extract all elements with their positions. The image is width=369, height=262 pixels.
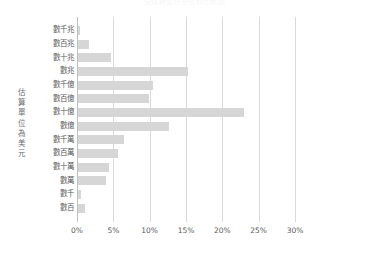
bar-row	[78, 51, 296, 65]
bar	[78, 149, 118, 158]
bar-row	[78, 202, 296, 216]
bar	[78, 67, 188, 76]
bar-row	[78, 24, 296, 38]
bar-row	[78, 120, 296, 134]
y-axis-category-label: 數萬	[28, 176, 74, 185]
bar	[78, 163, 109, 172]
y-axis-title-char: 元	[14, 149, 28, 159]
y-axis-title-char: 為	[14, 129, 28, 139]
bar-row	[78, 65, 296, 79]
bar-row	[78, 161, 296, 175]
bar	[78, 190, 81, 199]
y-axis-category-label: 數千萬	[28, 135, 74, 144]
y-axis-category-label: 數百億	[28, 94, 74, 103]
x-axis-tick-label: 0%	[71, 226, 83, 236]
bar	[78, 81, 153, 90]
bar-row	[78, 188, 296, 202]
y-axis-title-char: 估	[14, 88, 28, 98]
x-axis-tick-label: 5%	[107, 226, 119, 236]
x-axis-tick-label: 20%	[214, 226, 231, 236]
chart-title: 全球財富分布估算比例圖	[0, 0, 369, 6]
x-axis-tick-label: 25%	[250, 226, 267, 236]
bar	[78, 94, 149, 103]
y-axis-category-label: 數十兆	[28, 53, 74, 62]
y-axis-category-label: 數百	[28, 203, 74, 212]
bar-series	[78, 17, 296, 222]
y-axis-title: 估算單位為美元	[14, 88, 28, 159]
bar	[78, 108, 244, 117]
bar-row	[78, 133, 296, 147]
y-axis-category-labels: 數千兆數百兆數十兆數兆數千億數百億數十億數億數千萬數百萬數十萬數萬數千數百	[28, 17, 74, 222]
x-axis-tick-label: 15%	[178, 226, 195, 236]
y-axis-title-char: 算	[14, 98, 28, 108]
bar	[78, 40, 89, 49]
bar-row	[78, 174, 296, 188]
y-axis-category-label: 數千兆	[28, 25, 74, 34]
y-axis-title-char: 美	[14, 139, 28, 149]
y-axis-category-label: 數百萬	[28, 148, 74, 157]
bar-row	[78, 92, 296, 106]
y-axis-category-label: 數百兆	[28, 39, 74, 48]
y-axis-category-label: 數億	[28, 121, 74, 130]
y-axis-title-char: 位	[14, 119, 28, 129]
bar	[78, 26, 80, 35]
y-axis-category-label: 數十億	[28, 107, 74, 116]
y-axis-category-label: 數十萬	[28, 162, 74, 171]
y-axis-category-label: 數千	[28, 189, 74, 198]
x-axis-tick-label: 10%	[141, 226, 158, 236]
bar	[78, 53, 111, 62]
bar	[78, 176, 106, 185]
y-axis-category-label: 數兆	[28, 66, 74, 75]
bar-row	[78, 106, 296, 120]
bar-chart: 全球財富分布估算比例圖 估算單位為美元 數千兆數百兆數十兆數兆數千億數百億數十億…	[0, 0, 369, 262]
y-axis-title-char: 單	[14, 108, 28, 118]
plot-area	[77, 17, 295, 222]
bar-row	[78, 147, 296, 161]
bar	[78, 135, 124, 144]
bar	[78, 122, 169, 131]
x-axis-tick-label: 30%	[287, 226, 304, 236]
bar	[78, 204, 85, 213]
x-axis-tick-labels: 0%5%10%15%20%25%30%	[77, 226, 295, 240]
bar-row	[78, 38, 296, 52]
bar-row	[78, 79, 296, 93]
y-axis-category-label: 數千億	[28, 80, 74, 89]
